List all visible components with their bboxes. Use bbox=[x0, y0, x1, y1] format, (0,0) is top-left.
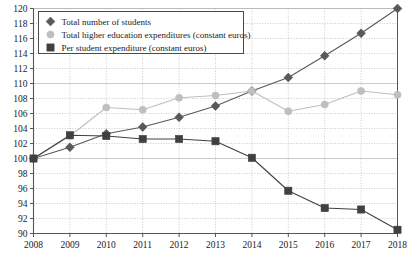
data-point-square bbox=[358, 206, 365, 213]
x-tick-label: 2015 bbox=[279, 240, 298, 250]
y-tick-label: 112 bbox=[14, 64, 28, 74]
y-tick-label: 108 bbox=[13, 94, 28, 104]
x-tick-label: 2014 bbox=[242, 240, 261, 250]
y-tick-label: 120 bbox=[13, 4, 28, 14]
x-tick-label: 2008 bbox=[24, 240, 43, 250]
chart-container: 9092949698100102104106108110112114116118… bbox=[0, 0, 413, 256]
data-point-square bbox=[103, 132, 110, 139]
legend-square-marker bbox=[47, 44, 54, 51]
x-tick-label: 2012 bbox=[170, 240, 189, 250]
data-point-square bbox=[212, 138, 219, 145]
legend-label: Total higher education expenditures (con… bbox=[62, 30, 251, 40]
y-tick-label: 106 bbox=[13, 109, 28, 119]
data-point-square bbox=[30, 155, 37, 162]
x-tick-label: 2011 bbox=[133, 240, 152, 250]
legend-label: Total number of students bbox=[62, 17, 152, 27]
data-point-circle bbox=[285, 108, 292, 115]
data-point-square bbox=[248, 154, 255, 161]
x-tick-label: 2018 bbox=[388, 240, 407, 250]
y-tick-label: 110 bbox=[14, 79, 28, 89]
data-point-circle bbox=[212, 92, 219, 99]
y-tick-label: 102 bbox=[13, 139, 28, 149]
data-point-circle bbox=[394, 91, 401, 98]
data-point-square bbox=[394, 226, 401, 233]
legend-circle-marker bbox=[47, 31, 54, 38]
y-tick-label: 118 bbox=[14, 19, 28, 29]
data-point-circle bbox=[358, 87, 365, 94]
y-tick-label: 94 bbox=[18, 199, 28, 209]
x-tick-label: 2016 bbox=[315, 240, 334, 250]
data-point-square bbox=[285, 187, 292, 194]
x-tick-label: 2010 bbox=[97, 240, 116, 250]
data-point-circle bbox=[103, 104, 110, 111]
x-tick-label: 2017 bbox=[352, 240, 371, 250]
x-tick-label: 2009 bbox=[60, 240, 79, 250]
data-point-circle bbox=[139, 106, 146, 113]
data-point-circle bbox=[176, 94, 183, 101]
data-point-square bbox=[139, 135, 146, 142]
data-point-square bbox=[66, 132, 73, 139]
y-tick-label: 100 bbox=[13, 154, 28, 164]
chart-legend: Total number of studentsTotal higher edu… bbox=[39, 12, 251, 54]
data-point-circle bbox=[321, 101, 328, 108]
y-tick-label: 96 bbox=[18, 184, 28, 194]
legend-label: Per student expenditure (constant euros) bbox=[62, 43, 207, 53]
y-tick-label: 98 bbox=[18, 169, 28, 179]
y-tick-label: 90 bbox=[18, 229, 28, 239]
y-tick-label: 114 bbox=[14, 49, 28, 59]
y-tick-label: 92 bbox=[18, 214, 28, 224]
data-point-circle bbox=[248, 87, 255, 94]
x-tick-label: 2013 bbox=[206, 240, 225, 250]
y-tick-label: 104 bbox=[13, 124, 28, 134]
data-point-square bbox=[176, 135, 183, 142]
line-chart: 9092949698100102104106108110112114116118… bbox=[0, 0, 413, 256]
y-tick-label: 116 bbox=[14, 34, 28, 44]
data-point-square bbox=[321, 204, 328, 211]
